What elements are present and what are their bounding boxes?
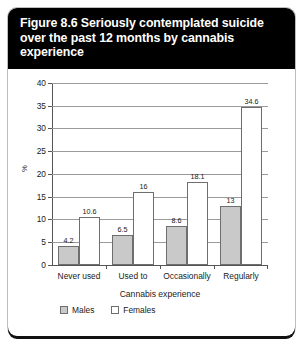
y-tick-label: 35 bbox=[37, 101, 46, 111]
y-tick-label: 40 bbox=[37, 78, 46, 88]
bar-males bbox=[220, 206, 241, 265]
figure-title: Figure 8.6 Seriously contemplated suicid… bbox=[8, 8, 295, 69]
legend-item-females: Females bbox=[111, 305, 155, 315]
legend-item-males: Males bbox=[60, 305, 94, 315]
bar-females bbox=[187, 182, 208, 264]
figure-card: Figure 8.6 Seriously contemplated suicid… bbox=[8, 8, 295, 336]
bar-females bbox=[241, 107, 262, 264]
x-tick-label: Never used bbox=[58, 271, 101, 281]
bar-value-label: 6.5 bbox=[118, 225, 128, 234]
y-tick-mark bbox=[48, 219, 52, 220]
x-tick-mark bbox=[160, 265, 161, 269]
bar-value-label: 16 bbox=[140, 182, 148, 191]
y-tick-mark bbox=[48, 242, 52, 243]
bar-value-label: 34.6 bbox=[245, 97, 259, 106]
bar-males bbox=[112, 235, 133, 265]
gridline bbox=[52, 197, 268, 198]
bar-males bbox=[58, 246, 79, 265]
y-tick-mark bbox=[48, 151, 52, 152]
bar-value-label: 4.2 bbox=[64, 236, 74, 245]
y-axis-label: % bbox=[20, 165, 29, 172]
bar-value-label: 13 bbox=[227, 196, 235, 205]
gridline bbox=[52, 83, 268, 84]
x-axis-label: Cannabis experience bbox=[52, 289, 268, 299]
gridline bbox=[52, 151, 268, 152]
plot-region: 0510152025303540 4.210.66.5168.618.11334… bbox=[52, 83, 268, 265]
x-tick-label: Regularly bbox=[223, 271, 258, 281]
x-tick-mark bbox=[106, 265, 107, 269]
gridline bbox=[52, 128, 268, 129]
y-tick-mark bbox=[48, 106, 52, 107]
legend-swatch-males bbox=[60, 306, 68, 314]
y-tick-label: 5 bbox=[41, 237, 46, 247]
bar-value-label: 18.1 bbox=[191, 172, 205, 181]
y-tick-label: 15 bbox=[37, 192, 46, 202]
legend: Males Females bbox=[60, 305, 155, 315]
y-tick-label: 20 bbox=[37, 169, 46, 179]
y-tick-mark bbox=[48, 174, 52, 175]
gridline bbox=[52, 174, 268, 175]
bar-males bbox=[166, 226, 187, 265]
y-tick-label: 25 bbox=[37, 146, 46, 156]
bar-value-label: 8.6 bbox=[172, 216, 182, 225]
x-tick-mark bbox=[214, 265, 215, 269]
y-tick-label: 10 bbox=[37, 214, 46, 224]
legend-label-males: Males bbox=[72, 305, 94, 315]
y-tick-mark bbox=[48, 83, 52, 84]
chart-area: % 0510152025303540 4.210.66.5168.618.113… bbox=[8, 69, 295, 326]
x-tick-mark bbox=[267, 265, 268, 269]
y-tick-label: 30 bbox=[37, 123, 46, 133]
bar-females bbox=[79, 217, 100, 265]
gridline bbox=[52, 106, 268, 107]
y-tick-mark bbox=[48, 265, 52, 266]
y-tick-mark bbox=[48, 128, 52, 129]
y-tick-mark bbox=[48, 197, 52, 198]
x-tick-label: Used to bbox=[119, 271, 148, 281]
legend-swatch-females bbox=[111, 306, 119, 314]
y-tick-label: 0 bbox=[41, 260, 46, 270]
bar-females bbox=[133, 192, 154, 265]
legend-label-females: Females bbox=[123, 305, 155, 315]
bar-value-label: 10.6 bbox=[83, 207, 97, 216]
x-tick-label: Occasionally bbox=[163, 271, 210, 281]
